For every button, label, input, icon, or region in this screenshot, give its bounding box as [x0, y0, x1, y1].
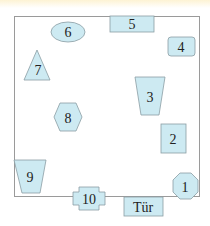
door[interactable]: Tür [124, 197, 163, 216]
object-7-triangle[interactable]: 7 [24, 50, 50, 80]
object-5-rectangle[interactable]: 5 [110, 16, 154, 32]
object-7-label: 7 [35, 63, 42, 78]
object-3-trapezoid[interactable]: 3 [135, 77, 165, 115]
object-1-octagon[interactable]: 1 [173, 173, 198, 199]
object-3-label: 3 [147, 90, 154, 105]
object-9-label: 9 [27, 170, 34, 185]
object-6-label: 6 [65, 25, 72, 40]
object-8-hexagon[interactable]: 8 [54, 103, 82, 131]
object-1-label: 1 [182, 180, 189, 195]
object-10-label: 10 [82, 192, 96, 207]
diagram-canvas: 6 5 4 7 3 8 2 9 1 10 [0, 0, 210, 226]
door-label: Tür [133, 200, 154, 215]
object-8-label: 8 [65, 111, 72, 126]
object-9-trapezoid[interactable]: 9 [14, 160, 46, 193]
object-10-cross-rectangle[interactable]: 10 [73, 187, 105, 210]
object-5-label: 5 [129, 17, 136, 32]
object-2-label: 2 [170, 132, 177, 147]
object-2-rectangle[interactable]: 2 [161, 124, 186, 153]
object-4-rounded-rectangle[interactable]: 4 [168, 37, 195, 56]
object-6-ellipse[interactable]: 6 [51, 22, 85, 42]
object-4-label: 4 [178, 40, 185, 55]
